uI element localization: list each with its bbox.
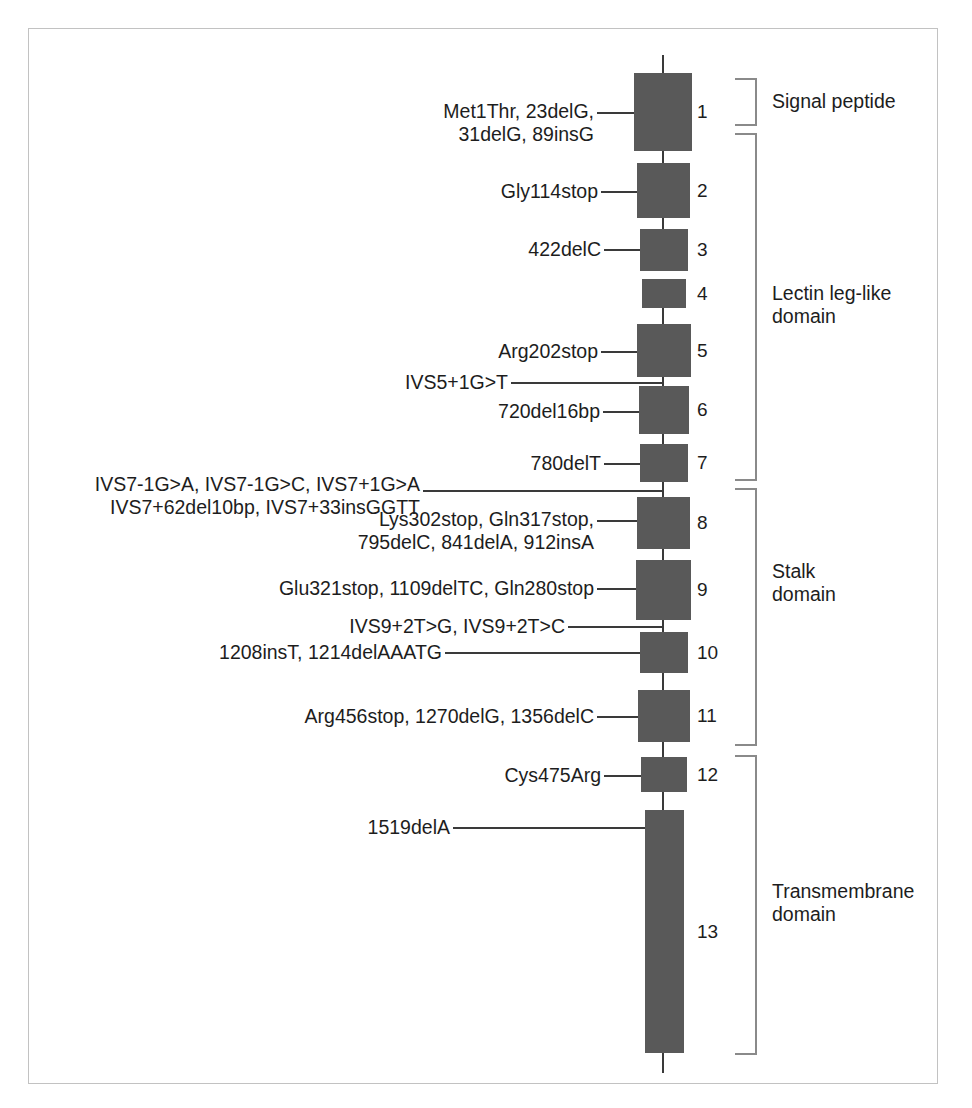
intron-line-segment [662,306,664,326]
exon-box-7[interactable] [640,444,688,482]
exon12-mutations-leader-line [604,775,641,777]
intron-line-segment [662,790,664,812]
intron-line-segment [662,55,664,75]
lectin-leg-like-domain-bracket-arm-top [735,133,756,135]
exon-number-9: 9 [697,580,708,599]
exon-box-3[interactable] [640,229,688,271]
exon10-mutations: 1208insT, 1214delAAATG [0,641,442,664]
ivs9-mutations: IVS9+2T>G, IVS9+2T>C [0,615,565,638]
exon-number-8: 8 [697,513,708,532]
exon-number-11: 11 [697,706,717,725]
exon-box-6[interactable] [639,386,689,434]
stalk-domain-bracket-arm-bottom [735,744,756,746]
exon-box-4[interactable] [642,279,686,308]
exon6-mutations: 720del16bp [0,400,600,423]
exon3-mutations-leader-line [604,249,640,251]
stalk-domain-label: Stalk domain [772,560,836,606]
exon-box-10[interactable] [640,632,688,673]
signal-peptide-bracket-arm-top [735,78,756,80]
exon2-mutations: Gly114stop [0,180,598,203]
ivs5-mutations-leader-line [511,382,663,384]
transmembrane-domain-label: Transmembrane domain [772,880,914,926]
exon-box-13[interactable] [645,810,684,1053]
intron-line-segment [662,1051,664,1073]
signal-peptide-bracket-arm-bottom [735,124,756,126]
lectin-leg-like-domain-bracket-arm-bottom [735,479,756,481]
exon-number-3: 3 [697,240,708,259]
exon-number-2: 2 [697,181,708,200]
exon7-mutations-leader-line [604,463,640,465]
lectin-leg-like-domain-bracket-spine [755,133,757,481]
lectin-leg-like-domain-label: Lectin leg-like domain [772,282,891,328]
signal-peptide-label: Signal peptide [772,90,896,113]
exon10-mutations-leader-line [445,652,640,654]
transmembrane-domain-bracket-arm-bottom [735,1053,756,1055]
gene-structure-figure: 12345678910111213Met1Thr, 23delG, 31delG… [0,0,972,1108]
exon8-mutations-leader-line [597,520,637,522]
exon-box-8[interactable] [637,497,690,549]
diagram-canvas: 12345678910111213Met1Thr, 23delG, 31delG… [0,0,972,1108]
exon-number-5: 5 [697,341,708,360]
exon8-mutations: Lys302stop, Gln317stop, 795delC, 841delA… [0,508,594,554]
exon-number-7: 7 [697,453,708,472]
exon5-mutations: Arg202stop [0,340,598,363]
stalk-domain-bracket-spine [755,488,757,746]
exon1-mutations: Met1Thr, 23delG, 31delG, 89insG [0,100,594,146]
exon-number-13: 13 [697,922,718,941]
exon-box-5[interactable] [637,324,691,377]
transmembrane-domain-bracket-arm-top [735,755,756,757]
stalk-domain-bracket-arm-top [735,488,756,490]
exon6-mutations-leader-line [603,411,639,413]
exon-number-10: 10 [697,643,718,662]
exon-number-12: 12 [697,765,718,784]
exon-box-2[interactable] [637,163,690,218]
ivs9-mutations-leader-line [568,626,663,628]
exon7-mutations: 780delT [0,452,601,475]
exon9-mutations-leader-line [597,588,636,590]
exon5-mutations-leader-line [601,351,637,353]
exon-box-11[interactable] [638,690,690,742]
exon2-mutations-leader-line [601,191,637,193]
exon-box-12[interactable] [641,757,687,792]
exon1-mutations-leader-line [597,112,634,114]
exon13-mutations: 1519delA [0,816,450,839]
ivs7-mutations-leader-line [423,490,663,492]
exon3-mutations: 422delC [0,238,601,261]
intron-line-segment [662,671,664,692]
exon-number-1: 1 [697,102,708,121]
exon-box-9[interactable] [636,560,691,620]
transmembrane-domain-bracket-spine [755,755,757,1055]
exon-number-6: 6 [697,400,708,419]
signal-peptide-bracket-spine [755,78,757,126]
exon11-mutations-leader-line [597,716,638,718]
exon9-mutations: Glu321stop, 1109delTC, Gln280stop [0,577,594,600]
ivs5-mutations: IVS5+1G>T [0,371,508,394]
exon-number-4: 4 [697,284,708,303]
exon13-mutations-leader-line [453,827,645,829]
exon12-mutations: Cys475Arg [0,764,601,787]
exon11-mutations: Arg456stop, 1270delG, 1356delC [0,705,594,728]
exon-box-1[interactable] [634,73,692,151]
